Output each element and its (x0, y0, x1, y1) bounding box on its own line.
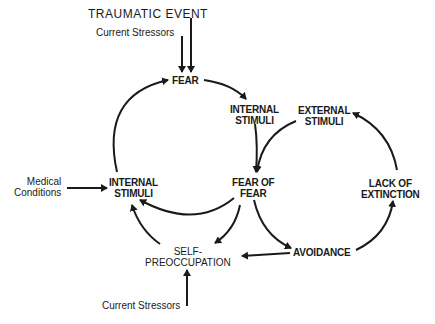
arrow-internal-left-to-fear (114, 80, 168, 172)
node-avoidance: AVOIDANCE (293, 247, 350, 258)
node-current-stressors-bottom: Current Stressors (102, 300, 180, 311)
node-medical-conditions: Medical Conditions (14, 176, 61, 198)
node-label-line: INTERNAL (230, 104, 279, 115)
node-label-line: LACK OF (361, 178, 420, 189)
arrow-avoidance-to-lackofextinction (356, 201, 393, 250)
arrow-lackofextinction-to-external (353, 113, 397, 170)
node-label-line: STIMULI (298, 116, 350, 127)
arrow-avoidance-to-selfpreoccupation (242, 253, 290, 256)
node-fear-of-fear: FEAR OF FEAR (232, 177, 275, 199)
node-label-line: STIMULI (109, 188, 158, 199)
arrow-fear-to-internal-right (204, 80, 246, 99)
node-traumatic-event: TRAUMATIC EVENT (88, 9, 208, 20)
node-internal-stimuli-right: INTERNAL STIMULI (230, 104, 279, 126)
node-label-line: PREOCCUPATION (145, 257, 231, 268)
node-external-stimuli: EXTERNAL STIMULI (298, 105, 350, 127)
node-current-stressors-top: Current Stressors (96, 27, 174, 38)
arrow-fearoffear-to-avoidance (254, 200, 291, 248)
arrow-fearoffear-to-internal-left (140, 198, 234, 215)
node-label-line: FEAR (232, 188, 275, 199)
node-lack-of-extinction: LACK OF EXTINCTION (361, 178, 420, 200)
diagram-arrows (0, 0, 435, 324)
node-label-line: EXTINCTION (361, 189, 420, 200)
arrow-internal-right-to-fearoffear (255, 124, 257, 172)
node-label-line: EXTERNAL (298, 105, 350, 116)
node-self-preoccupation: SELF- PREOCCUPATION (145, 246, 231, 268)
node-label-line: STIMULI (230, 115, 279, 126)
node-fear: FEAR (172, 75, 198, 86)
node-label-line: SELF- (145, 246, 231, 257)
node-label-line: Medical (14, 176, 61, 187)
arrow-fearoffear-to-selfpreoccupation (215, 205, 240, 243)
node-label-line: INTERNAL (109, 177, 158, 188)
node-label-line: Conditions (14, 187, 61, 198)
fear-of-fear-diagram: TRAUMATIC EVENT Current Stressors FEAR I… (0, 0, 435, 324)
arrow-external-to-fearoffear (257, 121, 296, 172)
node-internal-stimuli-left: INTERNAL STIMULI (109, 177, 158, 199)
arrow-selfpreoccupation-to-internal-left (132, 205, 160, 244)
node-label-line: FEAR OF (232, 177, 275, 188)
